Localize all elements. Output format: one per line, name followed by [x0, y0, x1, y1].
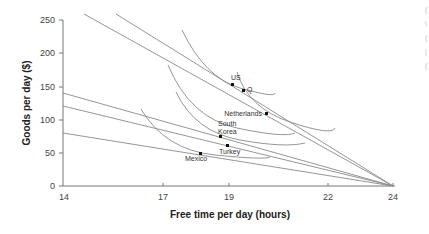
point-label-turkey: Turkey	[219, 148, 241, 156]
data-points	[199, 83, 268, 155]
y-ticks	[59, 20, 63, 186]
point-label-mexico: Mexico	[185, 155, 207, 162]
chart: 250 200 150 100 50 0 14 17 19 22 24 Free…	[0, 0, 429, 234]
clipped-text: (	[425, 62, 427, 69]
point-label-netherlands: Netherlands	[224, 110, 262, 117]
x-tick-label: 22	[323, 192, 333, 202]
x-tick-label: 14	[59, 192, 69, 202]
x-tick-label: 19	[224, 192, 234, 202]
clipped-text: (	[425, 6, 427, 13]
y-axis-title: Goods per day ($)	[21, 60, 32, 145]
y-tick-label: 200	[40, 48, 55, 58]
y-tick-label: 0	[50, 181, 55, 191]
y-tick-label: 100	[40, 115, 55, 125]
clipped-text: |	[425, 48, 427, 55]
clipped-text: \	[425, 20, 427, 27]
x-tick-label: 24	[388, 192, 398, 202]
y-tick-label: 250	[40, 15, 55, 25]
point-label-q: Q	[247, 86, 253, 94]
budget-lines	[63, 14, 393, 186]
point-label-korea: Korea	[218, 128, 237, 135]
point-label-south: South	[218, 120, 236, 127]
y-tick-label: 50	[45, 148, 55, 158]
y-tick-label: 150	[40, 82, 55, 92]
indifference-curves	[141, 30, 335, 158]
x-axis-title: Free time per day (hours)	[170, 209, 290, 220]
x-tick-label: 17	[158, 192, 168, 202]
point-label-us: US	[231, 74, 241, 81]
clipped-text: (	[425, 34, 427, 41]
